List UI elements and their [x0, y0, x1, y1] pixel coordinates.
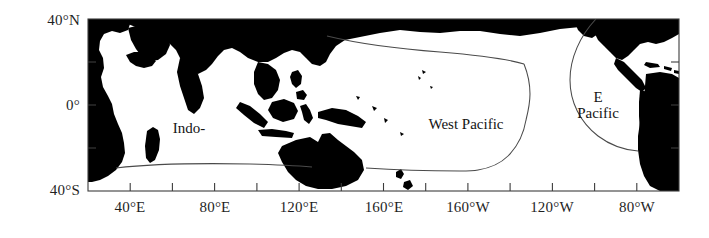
x-tick-label-80e: 80°E	[200, 199, 231, 216]
x-tick-label-120e: 120°E	[280, 199, 319, 216]
region-label-indo: Indo-	[173, 120, 206, 136]
x-tick-label-80w: 80°W	[619, 199, 655, 216]
y-tick-label-0: 0°	[16, 97, 80, 114]
region-label-e-pacific-line1: E	[593, 89, 602, 105]
y-tick-label-40s: 40°S	[16, 182, 80, 199]
x-tick-label-40e: 40°E	[115, 199, 146, 216]
x-tick-label-120w: 120°W	[530, 199, 574, 216]
region-label-e-pacific-line2: Pacific	[577, 105, 619, 121]
y-tick-label-40n: 40°N	[16, 12, 80, 29]
land-tasmania	[336, 191, 347, 199]
map-figure: 40°N 0° 40°S 40°E 80°E 120°E 160°E 160°W…	[0, 0, 709, 238]
x-tick-label-160e: 160°E	[365, 199, 404, 216]
region-label-e-pacific: E Pacific	[563, 89, 633, 121]
region-label-west-pacific: West Pacific	[428, 116, 503, 132]
x-tick-label-160w: 160°W	[446, 199, 490, 216]
